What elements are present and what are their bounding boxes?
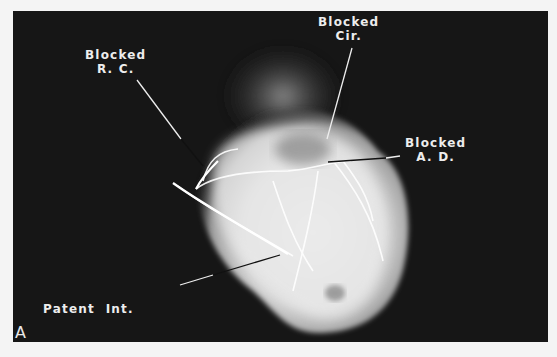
label-line: Blocked xyxy=(318,15,379,29)
label-line: Cir. xyxy=(318,29,379,43)
radiograph-panel: Blocked R. C. Blocked Cir. Blocked A. D.… xyxy=(13,11,548,342)
label-line: Patent Int. xyxy=(43,302,175,316)
label-blocked-ad: Blocked A. D. xyxy=(405,136,466,164)
panel-letter: A xyxy=(15,324,26,342)
label-blocked-cir: Blocked Cir. xyxy=(318,15,379,43)
label-blocked-rc: Blocked R. C. xyxy=(85,48,146,76)
label-line: A. D. xyxy=(405,150,466,164)
label-line: R. C. xyxy=(85,62,146,76)
label-line: Blocked xyxy=(405,136,466,150)
label-patent-internal-mammary-artery: Patent Int. Mammary Art. xyxy=(43,274,175,342)
label-line: Blocked xyxy=(85,48,146,62)
